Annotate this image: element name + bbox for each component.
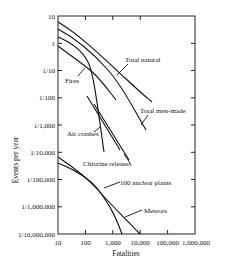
y-tick-label: 1/1,000 xyxy=(34,122,56,130)
x-tick-label: 100,000 xyxy=(156,239,179,247)
series-chlorine-releases xyxy=(94,104,129,160)
label-fires: Fires xyxy=(65,77,79,85)
label-air-crashes: Air crashes xyxy=(67,130,99,138)
x-tick-label: 10 xyxy=(55,239,63,247)
plot-frame xyxy=(58,16,195,234)
y-tick-label: 1/100,000 xyxy=(27,176,56,184)
y-tick-label: 1/1,000,000 xyxy=(22,203,56,211)
x-axis-title: Fatalities xyxy=(112,249,140,258)
x-tick-label: 1,000,000 xyxy=(182,239,211,247)
y-tick-label: 1/10,000,000 xyxy=(18,231,55,239)
series-air-crashes-tail xyxy=(87,96,120,150)
x-tick-label: 10,000 xyxy=(131,239,151,247)
curves xyxy=(58,22,152,234)
series-100-nuclear-plants xyxy=(58,163,122,234)
label-100-nuclear-plants: 100 nuclear plants xyxy=(120,179,172,187)
y-tick-label: 10 xyxy=(48,13,56,21)
y-axis-title: Events per year xyxy=(11,136,20,183)
label-total-man-made: Total men-made xyxy=(140,107,186,115)
series-labels: Total natural Total men-made Fires Air c… xyxy=(65,56,186,215)
y-tick-label: 1 xyxy=(52,40,56,48)
x-tick-labels: 10 100 1,000 10,000 100,000 1,000,000 xyxy=(55,239,211,247)
risk-chart: 10 1 1/10 1/100 1/1,000 1/10,000 1/100,0… xyxy=(0,0,230,270)
y-tick-label: 1/10 xyxy=(43,67,56,75)
label-meteors: Meteors xyxy=(144,207,167,215)
y-tick-label: 1/100 xyxy=(39,94,55,102)
x-tick-label: 100 xyxy=(80,239,91,247)
leader-lines xyxy=(78,64,148,217)
label-total-natural: Total natural xyxy=(125,56,161,64)
label-chlorine-releases: Chlorine releases xyxy=(83,160,132,168)
x-tick-marks xyxy=(85,16,167,234)
x-tick-label: 1,000 xyxy=(105,239,121,247)
y-tick-labels: 10 1 1/10 1/100 1/1,000 1/10,000 1/100,0… xyxy=(18,13,55,239)
y-tick-label: 1/10,000 xyxy=(30,149,55,157)
series-fires xyxy=(58,46,116,100)
